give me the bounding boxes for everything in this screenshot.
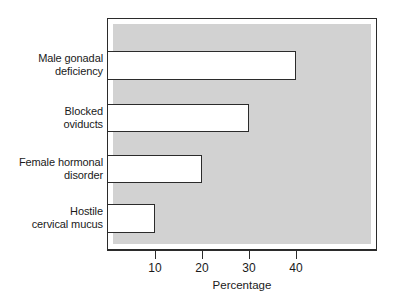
category-label-male-gonadal-deficiency: Male gonadal deficiency: [0, 52, 103, 77]
x-tick-label-10: 10: [135, 261, 175, 275]
category-label-hostile-cervical-mucus: Hostile cervical mucus: [0, 205, 103, 230]
x-tick-10: [155, 251, 156, 259]
x-tick-40: [296, 251, 297, 259]
category-label-line1: Female hormonal: [19, 156, 103, 168]
x-axis-line: [107, 250, 377, 251]
category-label-line2: cervical mucus: [32, 218, 103, 230]
category-label-line2: oviducts: [63, 118, 103, 130]
category-label-female-hormonal-disorder: Female hormonal disorder: [0, 156, 103, 181]
category-labels: Male gonadal deficiency Blocked oviducts…: [0, 18, 103, 250]
category-label-line1: Male gonadal: [38, 52, 103, 64]
bar-male-gonadal-deficiency: [107, 51, 296, 80]
category-label-line2: disorder: [64, 169, 103, 181]
bar-hostile-cervical-mucus: [107, 204, 155, 233]
category-label-blocked-oviducts: Blocked oviducts: [0, 105, 103, 130]
x-tick-30: [249, 251, 250, 259]
x-axis-right-stub: [376, 243, 377, 251]
bar-blocked-oviducts: [107, 104, 249, 132]
x-tick-20: [202, 251, 203, 259]
x-axis-title: Percentage: [107, 278, 377, 292]
x-tick-label-40: 40: [276, 261, 316, 275]
bar-chart: Male gonadal deficiency Blocked oviducts…: [0, 0, 404, 302]
category-label-line2: deficiency: [55, 65, 103, 77]
x-tick-label-20: 20: [182, 261, 222, 275]
x-tick-label-30: 30: [229, 261, 269, 275]
category-label-line1: Blocked: [65, 105, 103, 117]
bars-layer: [107, 18, 377, 250]
category-label-line1: Hostile: [70, 205, 103, 217]
x-axis-left-stub: [107, 243, 108, 251]
bar-female-hormonal-disorder: [107, 155, 202, 183]
